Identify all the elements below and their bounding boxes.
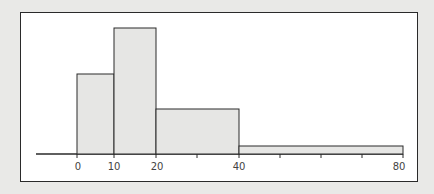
histogram-chart: 0 10 20 40 80 bbox=[0, 0, 434, 194]
bar-10-20 bbox=[114, 28, 156, 154]
tick-label-10: 10 bbox=[108, 161, 121, 172]
tick-label-80: 80 bbox=[393, 161, 406, 172]
tick-label-20: 20 bbox=[151, 161, 164, 172]
tick-label-0: 0 bbox=[75, 161, 81, 172]
bar-20-40 bbox=[156, 109, 239, 154]
tick-label-40: 40 bbox=[233, 161, 246, 172]
bar-0-10 bbox=[77, 74, 114, 154]
bar-40-80 bbox=[239, 146, 403, 154]
